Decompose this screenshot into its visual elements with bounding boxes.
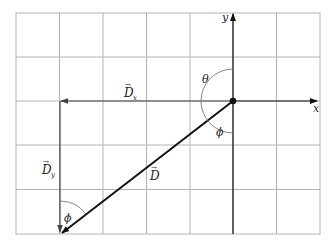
y-axis-label: y [221,11,229,24]
dy-label-sub: y [50,171,56,179]
phi-origin-label: ϕ [216,126,224,139]
d-label-main: D [149,169,160,183]
origin-point [230,98,237,105]
label-dx: → D x [123,81,137,102]
vector-diagram: y x θ ϕ ϕ → D x → D y → D [0,0,335,246]
theta-label: θ [202,73,209,86]
dx-label-sub: x [133,94,137,102]
x-axis-label: x [313,102,320,115]
label-dy: → D y [41,158,56,179]
phi-tail-label: ϕ [64,212,72,225]
label-d: → D [149,164,160,183]
